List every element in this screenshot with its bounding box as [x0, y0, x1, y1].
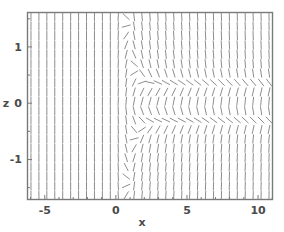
slope-segment [174, 22, 175, 31]
slope-segment [221, 153, 222, 162]
slope-segment [181, 163, 182, 172]
slope-segment [118, 191, 119, 200]
slope-segment [158, 181, 159, 190]
slope-field-figure: -5051010-1xz [0, 0, 284, 232]
y-axis-title: z [3, 97, 9, 110]
y-tick-label: 0 [14, 97, 22, 110]
slope-segment [150, 191, 151, 200]
slope-segment [245, 50, 246, 59]
slope-segment [253, 144, 254, 153]
slope-segment [197, 163, 198, 172]
slope-segment [174, 172, 175, 181]
slope-segment [213, 40, 214, 49]
slope-segment [229, 153, 230, 162]
slope-segment [181, 31, 182, 40]
slope-segment [245, 144, 246, 153]
slope-segment [158, 12, 159, 21]
slope-segment [166, 181, 167, 190]
slope-segment [221, 50, 222, 59]
y-tick-label: 1 [14, 41, 22, 54]
x-axis-title: x [138, 216, 145, 229]
slope-segment [197, 40, 198, 49]
x-tick-label: -5 [39, 204, 51, 217]
slope-segment [181, 172, 182, 181]
slope-segment [213, 153, 214, 162]
x-tick-label: 5 [183, 204, 191, 217]
slope-segment [205, 153, 206, 162]
slope-segment [166, 172, 167, 181]
slope-segment [261, 144, 262, 153]
y-tick-label: -1 [10, 153, 22, 166]
slope-segment [174, 31, 175, 40]
slope-segment [150, 12, 151, 21]
slope-segment [189, 40, 190, 49]
slope-segment [166, 12, 167, 21]
x-tick-label: 0 [112, 204, 120, 217]
slope-segment [229, 50, 230, 59]
x-tick-label: 10 [250, 204, 266, 217]
slope-segment [189, 163, 190, 172]
slope-segment [205, 40, 206, 49]
slope-segment [253, 50, 254, 59]
direction-field-plot: -5051010-1xz [0, 0, 284, 232]
slope-segment [237, 50, 238, 59]
slope-segment [189, 31, 190, 40]
slope-segment [269, 144, 270, 153]
slope-segment [166, 22, 167, 31]
